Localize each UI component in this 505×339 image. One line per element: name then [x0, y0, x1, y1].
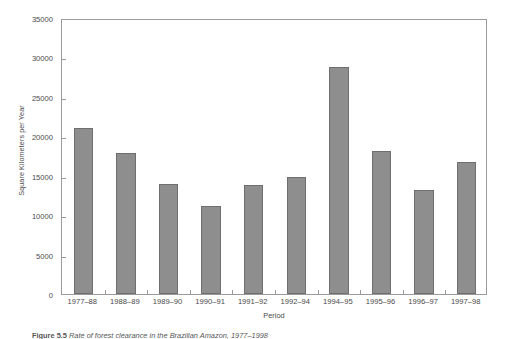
x-axis-tick-mark	[232, 290, 233, 294]
plot-inner	[62, 20, 486, 294]
x-axis-tick-label: 1996–97	[408, 297, 438, 306]
y-axis-tick-label: 10000	[32, 212, 53, 221]
x-axis-tick-label: 1994–95	[323, 297, 353, 306]
x-axis-title: Period	[61, 311, 487, 320]
plot-area	[61, 19, 487, 295]
figure-caption-label: Figure 5.5	[32, 331, 67, 339]
x-axis-tick-label: 1988–89	[110, 297, 140, 306]
y-axis-tick-mark	[62, 178, 66, 179]
figure-caption-text: Rate of forest clearance in the Brazilia…	[69, 331, 268, 339]
y-axis-tick-label: 35000	[32, 15, 53, 24]
x-axis-tick-mark	[147, 290, 148, 294]
bar	[329, 67, 349, 294]
y-axis-tick-label: 5000	[36, 251, 53, 260]
y-axis-tick-labels: 05000100001500020000250003000035000	[24, 19, 57, 295]
x-axis-tick-label: 1977–88	[68, 297, 98, 306]
x-axis-tick-mark	[403, 290, 404, 294]
bar	[116, 153, 136, 294]
bar	[372, 151, 392, 294]
x-axis-tick-mark	[190, 290, 191, 294]
y-axis-tick-label: 15000	[32, 172, 53, 181]
y-axis-tick-label: 30000	[32, 54, 53, 63]
y-axis-tick-mark	[62, 59, 66, 60]
x-axis-tick-mark	[445, 290, 446, 294]
bar	[201, 206, 221, 294]
bar	[74, 128, 94, 294]
x-axis-tick-label: 1995–96	[366, 297, 396, 306]
bar	[159, 184, 179, 294]
x-axis-tick-label: 1989–90	[153, 297, 183, 306]
x-axis-tick-mark	[360, 290, 361, 294]
y-axis-tick-label: 25000	[32, 93, 53, 102]
y-axis-tick-mark	[62, 257, 66, 258]
y-axis-tick-mark	[62, 138, 66, 139]
bar	[287, 177, 307, 294]
bar	[414, 190, 434, 294]
y-axis-tick-label: 20000	[32, 133, 53, 142]
figure-caption: Figure 5.5 Rate of forest clearance in t…	[32, 331, 492, 339]
x-axis-tick-mark	[318, 290, 319, 294]
x-axis-tick-label: 1990–91	[195, 297, 225, 306]
x-axis-tick-mark	[275, 290, 276, 294]
y-axis-tick-label: 0	[49, 291, 53, 300]
bar	[457, 162, 477, 294]
y-axis-tick-mark	[62, 217, 66, 218]
x-axis-tick-label: 1997–98	[451, 297, 481, 306]
x-axis-tick-labels: 1977–881988–891989–901990–911991–921992–…	[61, 297, 487, 309]
x-axis-tick-label: 1991–92	[238, 297, 268, 306]
y-axis-tick-mark	[62, 99, 66, 100]
bar	[244, 185, 264, 294]
x-axis-tick-mark	[105, 290, 106, 294]
figure-container: Square Kilometers per Year 0500010000150…	[0, 0, 505, 339]
x-axis-tick-label: 1992–94	[281, 297, 311, 306]
